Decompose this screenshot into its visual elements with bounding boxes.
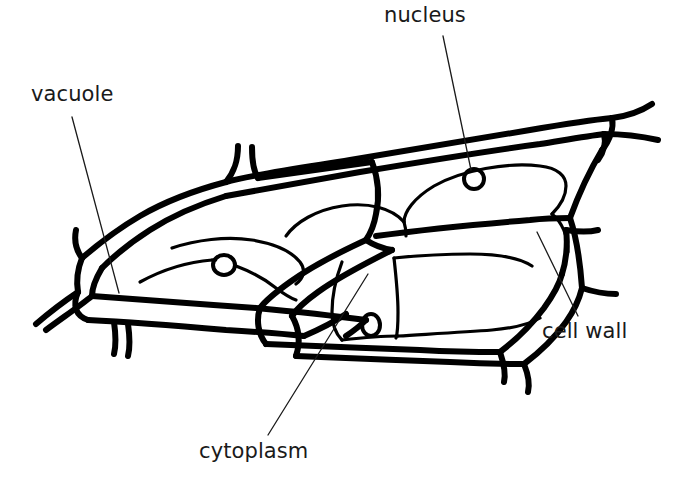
- label-cytoplasm: cytoplasm: [199, 441, 308, 462]
- wall-left-tip-up: [75, 230, 82, 258]
- wall-top-lower-edge: [226, 134, 604, 196]
- wall-bottom-lower-outer: [266, 344, 500, 352]
- cytoplasm-bottom-left-curve: [332, 262, 342, 340]
- wall-bottom-stub-b: [524, 364, 529, 392]
- wall-right-fork-up: [612, 104, 652, 118]
- wall-right-mid-stub: [566, 230, 598, 232]
- wall-bottom-stub-a: [500, 352, 505, 382]
- wall-stub-upper-right: [252, 147, 258, 178]
- leader-line-cytoplasm: [268, 274, 368, 435]
- cytoplasm-top-arc-left: [286, 205, 404, 236]
- wall-left-bottom: [92, 296, 366, 320]
- plant-cell-illustration: [0, 0, 680, 487]
- cytoplasm-top-arc-right: [404, 165, 566, 222]
- leader-line-cell-wall: [537, 232, 578, 316]
- label-vacuole: vacuole: [31, 84, 113, 105]
- wall-right-bottom-stub: [582, 288, 616, 294]
- wall-left-tip-down: [77, 258, 82, 292]
- wall-left-inner-turn: [92, 268, 102, 296]
- cell-wall-outlines: [36, 104, 658, 392]
- wall-left-stub-b: [128, 324, 130, 356]
- leader-line-nucleus: [443, 36, 471, 170]
- wall-left-top: [82, 182, 226, 258]
- wall-right-inner-curve: [598, 134, 605, 160]
- wall-bottom-lower: [296, 356, 524, 364]
- wall-bottom-outer-turn: [258, 308, 266, 344]
- diagram-canvas: vacuole nucleus cytoplasm cell wall: [0, 0, 680, 487]
- wall-left-bottom-outer: [88, 320, 304, 336]
- cytoplasm-left-lower: [140, 260, 212, 282]
- label-cell-wall: cell wall: [542, 321, 627, 342]
- wall-bottom-left-side-inner: [292, 250, 392, 316]
- cytoplasm-bottom-top: [394, 254, 532, 266]
- nucleus-left-cell: [213, 255, 235, 275]
- label-nucleus: nucleus: [384, 5, 466, 26]
- cytoplasm-bottom-divider: [394, 258, 398, 338]
- wall-top-cell-bottom-join: [366, 240, 392, 250]
- wall-left-stub-a: [114, 322, 116, 354]
